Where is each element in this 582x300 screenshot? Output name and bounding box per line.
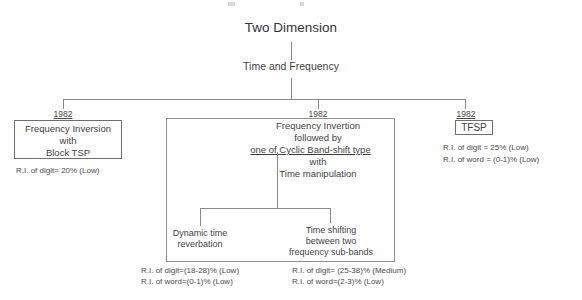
right-branch-metric-1: R.I. of digit = 25% (Low) [443,142,529,153]
scan-artifact [228,2,235,6]
connector-drop-left [63,99,64,109]
center-left-metric-1: R.I. of digit=(18-28)% (Low) [141,265,239,276]
connector-subbranch-bus [200,208,331,209]
center-branch-box-line-4: with [243,156,393,168]
right-branch-year: 1982 [444,109,488,119]
root-title: Two Dimension [191,22,391,33]
connector-drop-center [318,99,319,109]
connector-subtitle-to-bus [291,78,292,99]
connector-root-to-subtitle [291,42,292,60]
center-right-leaf-line-3: frequency sub-bands [283,247,379,258]
connector-drop-subbranch-right [330,208,331,223]
diagram-canvas: Two Dimension Time and Frequency 1982 Fr… [0,0,582,300]
connector-drop-right [465,99,466,109]
right-branch-metric-2: R.I. of word = (0-1)% (Low) [443,154,539,165]
right-branch-box: TFSP [455,120,493,135]
root-subtitle: Time and Frequency [191,61,391,72]
center-right-metric-1: R.I. of digit= (25-38)% (Medium) [292,265,406,276]
center-right-metric-2: R.I. of word=(2-3)% (Low) [292,276,384,287]
center-left-metric-2: R.I. of word=(0-1)% (Low) [141,276,233,287]
left-branch-box-line-3: Block TSP [15,147,121,159]
center-branch-box-line-5: Time manipulation [243,168,393,180]
center-branch-box-line-2: followed by [243,132,393,144]
center-right-leaf-line-2: between two [283,236,379,247]
scan-artifact [300,2,304,6]
center-left-leaf-line-1: Dynamic time [160,228,240,239]
center-left-leaf-line-2: reverbation [160,239,240,250]
left-branch-box-line-2: with [15,135,121,147]
center-right-leaf-line-1: Time shifting [283,225,379,236]
left-branch-box: Frequency Inversion with Block TSP [14,120,122,159]
center-branch-box-line-3: one of Cyclic Band-shift type [228,144,393,156]
connector-main-bus [63,99,466,100]
left-branch-year: 1982 [33,109,93,119]
center-branch-box-line-1: Frequency Invertion [243,120,393,132]
left-branch-metric-1: R.I. of digit= 20% (Low) [16,165,99,176]
connector-drop-subbranch-left [200,208,201,226]
connector-center-stem [277,152,278,208]
left-branch-box-line-1: Frequency Inversion [15,123,121,135]
